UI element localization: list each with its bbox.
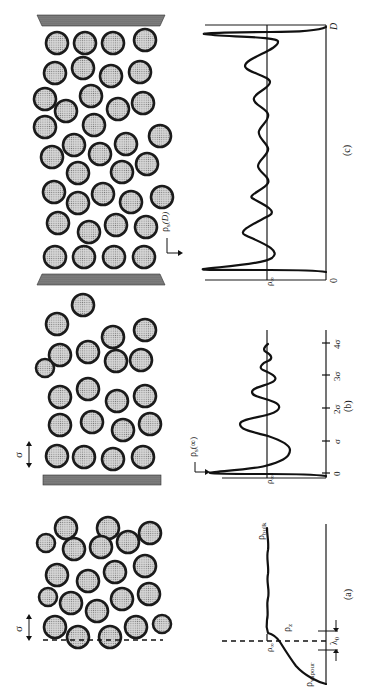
b-sigma-label: σ (12, 452, 24, 458)
svg-text:σ: σ (12, 626, 24, 632)
a-density-curve (267, 528, 326, 684)
a-lambda-label: λ0 (328, 636, 341, 645)
svg-text:ρ∞: ρ∞ (264, 277, 275, 286)
b-rho-s-label: ρs(∞) (187, 437, 200, 457)
panel-a-particles (26, 517, 171, 648)
particles-c (34, 29, 173, 268)
c-caption: (c) (341, 145, 353, 156)
c-x-start-label: 0 (328, 278, 339, 283)
a-rho-inf-label: ρ∞ (264, 643, 275, 652)
c-rho-inf-label: ρ∞ (264, 277, 275, 286)
svg-text:(a): (a) (342, 589, 354, 600)
svg-text:0: 0 (328, 278, 339, 283)
c-rho-s-pointer (167, 238, 178, 253)
a-rho-bulk-label: ρbulk (255, 522, 268, 540)
b-tick-3: 3σ (332, 372, 342, 382)
svg-text:(b): (b) (342, 400, 354, 412)
svg-text:ρ∞: ρ∞ (264, 643, 275, 652)
b-rho-inf-label: ρ∞ (264, 475, 275, 484)
c-x-end-label: D (328, 22, 339, 31)
panel-a-profile (222, 524, 339, 685)
b-density-curve (210, 344, 326, 476)
panel-b-particles (26, 294, 161, 485)
svg-text:ρbulk: ρbulk (255, 522, 268, 540)
b-tick-labels: 0 σ 2σ 3σ 4σ (332, 340, 342, 477)
b-caption: (b) (342, 400, 354, 412)
a-caption: (a) (342, 589, 354, 600)
b-tick-1: σ (332, 439, 342, 444)
wall-bottom (37, 274, 165, 285)
a-sigma-label: σ (12, 626, 24, 632)
b-tick-4: 4σ (332, 340, 342, 350)
particles-a (37, 517, 171, 648)
svg-text:D: D (328, 22, 339, 31)
svg-text:ρz: ρz (281, 624, 294, 632)
a-rho-z-label: ρz (281, 624, 294, 632)
c-arrowhead (178, 250, 183, 256)
particles-b (36, 294, 161, 470)
panel-c-particles (34, 15, 173, 285)
svg-text:ρ∞: ρ∞ (264, 475, 275, 484)
wall-b (43, 475, 161, 485)
b-tick-0: 0 (332, 471, 342, 476)
panel-b-profile (195, 330, 330, 478)
density-profile-figure: ρs(D) ρ∞ 0 D (c) (0, 0, 369, 691)
b-tick-2: 2σ (332, 405, 342, 415)
svg-text:(c): (c) (341, 145, 353, 156)
svg-text:ρs(D): ρs(D) (159, 212, 172, 232)
c-density-curve (203, 27, 326, 272)
b-rho-s-pointer (195, 462, 205, 472)
svg-text:ρs(∞): ρs(∞) (187, 437, 200, 457)
svg-text:σ: σ (12, 452, 24, 458)
c-rho-s-label: ρs(D) (159, 212, 172, 232)
svg-text:λ0: λ0 (328, 636, 341, 645)
panel-c-profile (167, 25, 326, 280)
wall-top (37, 15, 165, 26)
